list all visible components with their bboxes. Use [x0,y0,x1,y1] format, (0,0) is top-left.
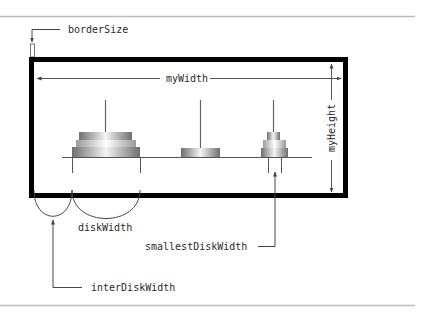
tower-3 [261,100,288,157]
disk-large [72,147,140,157]
disk-width-ticks [73,157,282,173]
tower-2 [181,100,220,157]
border-size-callout: borderSize [31,24,129,57]
smallest-disk-width-label: smallestDiskWidth [145,241,247,252]
my-height-label: myHeight [326,104,337,152]
border-size-label: borderSize [68,24,128,35]
disk-small [79,132,132,140]
disk-large [261,148,288,157]
my-height-dimension: myHeight [326,64,337,192]
disk-width-label: diskWidth [78,222,132,233]
inter-disk-width-label: interDiskWidth [91,282,175,293]
hanoi-dimension-diagram: borderSize myWidth myHeight [0,0,430,317]
smallest-disk-width-callout: smallestDiskWidth [145,172,275,252]
tower-1 [72,100,140,157]
disk-small [267,132,280,140]
my-width-label: myWidth [166,73,208,84]
disk-medium [263,140,286,148]
my-width-dimension: myWidth [37,73,341,84]
disk-medium [76,140,136,147]
disk-medium [181,148,220,157]
